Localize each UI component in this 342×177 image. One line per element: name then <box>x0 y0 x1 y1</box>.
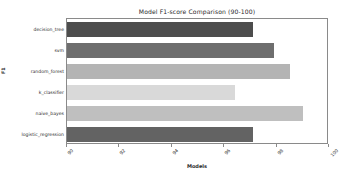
x-tick-mark <box>66 144 67 147</box>
bar-row <box>67 40 327 61</box>
x-tick-label: 94 <box>172 148 180 156</box>
bar-naive-bayes[interactable] <box>67 106 303 121</box>
x-tick-label: 100 <box>330 148 340 158</box>
bar-row <box>67 124 327 145</box>
x-axis-tick-labels: 9092949698100 <box>66 144 328 162</box>
bar-row <box>67 61 327 82</box>
chart-title: Model F1-score Comparison (90-100) <box>66 8 328 15</box>
bar-k-classifier[interactable] <box>67 85 235 100</box>
chart-figure: Model F1-score Comparison (90-100) F1 de… <box>0 0 342 177</box>
x-tick-mark <box>223 144 224 147</box>
bar-row <box>67 19 327 40</box>
y-tick-label: logistic_regression <box>4 131 64 136</box>
x-tick-label: 92 <box>119 148 127 156</box>
x-tick-label: 98 <box>276 148 284 156</box>
x-tick-mark <box>171 144 172 147</box>
y-tick-label: svm <box>4 47 64 52</box>
bar-row <box>67 82 327 103</box>
bar-logistic-regression[interactable] <box>67 127 253 142</box>
x-tick-mark <box>118 144 119 147</box>
x-tick-mark <box>276 144 277 147</box>
x-tick-label: 96 <box>224 148 232 156</box>
plot-area <box>66 18 328 144</box>
y-tick-label: k_classifier <box>4 89 64 94</box>
x-tick-mark <box>328 144 329 147</box>
y-tick-label: naive_bayes <box>4 110 64 115</box>
y-axis-tick-labels: decision_tree svm random_forest k_classi… <box>2 18 64 144</box>
bar-random-forest[interactable] <box>67 64 290 79</box>
x-tick-label: 90 <box>67 148 75 156</box>
bar-row <box>67 103 327 124</box>
x-axis-label: Models <box>66 163 328 169</box>
y-tick-label: decision_tree <box>4 26 64 31</box>
y-tick-label: random_forest <box>4 68 64 73</box>
bar-svm[interactable] <box>67 43 274 58</box>
bar-decision-tree[interactable] <box>67 22 253 37</box>
